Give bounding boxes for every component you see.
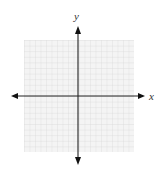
y-axis-up-arrow-icon — [75, 26, 81, 34]
y-axis-down-arrow-icon — [75, 157, 81, 165]
x-axis-right-arrow-icon — [138, 93, 145, 99]
x-axis-label: x — [149, 91, 154, 102]
x-axis-left-arrow-icon — [11, 93, 18, 99]
y-axis-label: y — [74, 11, 79, 22]
coordinate-plane — [0, 0, 161, 170]
